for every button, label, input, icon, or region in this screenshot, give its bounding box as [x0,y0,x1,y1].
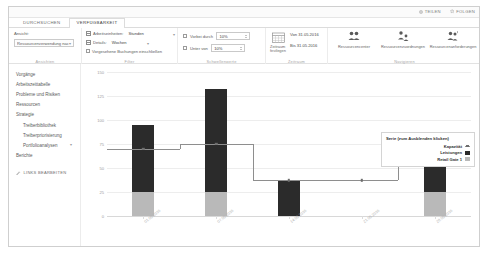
filter-arbeitseinheiten-value: Stunden [129,31,144,36]
filter-vorgesehene-buchungen[interactable]: Vorgesehene Buchungen einschließen [86,49,162,54]
legend-title: Serie (zum Ausblenden klicken) [386,136,470,141]
legend-item-swatch [465,151,470,155]
tab-durchsuchen[interactable]: DURCHSUCHEN [15,18,69,28]
legend-item-swatch [465,157,470,161]
ansicht-label: Ansicht: [14,31,29,36]
chart-capacity-marker[interactable] [215,143,217,145]
chart-ytick-label: 75 [99,142,104,147]
threshold-over-row: Vorbei durch 10% [183,32,250,40]
ressourcencenter-button[interactable]: Ressourcencenter [330,30,378,49]
chart-bar-segment[interactable] [205,89,227,192]
chart-legend: Serie (zum Ausblenden klicken) Kapazität… [381,132,475,167]
ribbon-group-filter-label: Filter [82,59,177,64]
view-select[interactable]: Ressourcenverwendung nac ▾ [14,39,74,47]
ressourcencenter-label: Ressourcencenter [330,45,378,49]
ribbon-group-zeitraum: Zeitraum festlegen Von 31.05.2016 Bis 31… [265,28,327,64]
checkbox-unter-von[interactable] [183,46,187,50]
chart-bar-group[interactable]: 01.05.2016 [107,72,180,216]
sidebar-item-list: VorgängeArbeitszeittabelleProbleme und R… [9,69,80,161]
legend-item-retail-gate-1[interactable]: Retail Gate 1 [386,157,470,162]
stepper-down-icon[interactable] [240,49,242,50]
star-icon [450,9,454,13]
ribbon-group-ansichten: Ansicht: Ressourcenverwendung nac ▾ Ansi… [9,28,81,64]
sidebar-item-treiberbibliothek[interactable]: Treiberbibliothek [9,120,80,130]
chevron-down-icon-details[interactable]: ▾ [147,41,149,46]
chart-bar-segment[interactable] [424,192,446,216]
sidebar-item-arbeitszeittabelle[interactable]: Arbeitszeittabelle [9,79,80,89]
chart-ytick-label: 125 [97,94,104,99]
chevron-down-icon[interactable]: ▾ [70,143,72,147]
threshold-over-value: 10% [217,34,228,39]
threshold-under-stepper[interactable] [239,45,243,51]
sidebar: VorgängeArbeitszeittabelleProbleme und R… [9,64,81,246]
legend-rows: KapazitätLeistungenRetail Gate 1 [386,144,470,162]
legend-item-swatch [465,146,470,147]
ressourcenzuordnungen-button[interactable]: Ressourcenzuordnungen [379,30,427,49]
chart-capacity-riser [398,166,399,180]
chart-ytick-label: 50 [99,166,104,171]
top-bar: TEILEN FOLGEN [9,7,479,18]
chart-ytick-label: 25 [99,190,104,195]
chart-bar-segment[interactable] [278,180,300,216]
tab-verfuegbarkeit[interactable]: VERFÜGBARKEIT [69,18,126,29]
follow-button[interactable]: FOLGEN [450,9,475,14]
threshold-under-label: Unter von [190,46,208,51]
checkbox-vorbei-durch[interactable] [183,34,187,38]
legend-item-kapazit-t[interactable]: Kapazität [386,144,470,149]
sidebar-item-label: Strategie [16,112,34,117]
filter-vorgesehene-buchungen-label: Vorgesehene Buchungen einschließen [92,49,162,54]
stepper-up-icon[interactable] [245,35,247,36]
ressourcenanforderungen-button[interactable]: Ressourcenanforderungen [429,30,477,49]
filter-details[interactable]: Details: Wochen [86,40,127,45]
people-request-icon [446,30,460,43]
checkbox-vorgesehene-buchungen[interactable] [86,49,90,53]
sidebar-item-ressourcen[interactable]: Ressourcen [9,100,80,110]
ribbon-group-navigieren-label: Navigieren [328,59,480,64]
filter-arbeitseinheiten[interactable]: Arbeitseinheiten: Stunden [86,31,144,36]
sidebar-item-berichte[interactable]: Berichte [9,151,80,161]
chevron-down-icon-units[interactable]: ▾ [173,32,175,37]
chart-capacity-marker[interactable] [288,179,290,181]
view-select-value: Ressourcenverwendung nac [17,41,69,46]
threshold-over-input[interactable]: 10% [216,32,250,40]
ribbon: Ansicht: Ressourcenverwendung nac ▾ Ansi… [9,28,479,64]
set-date-range-label: Zeitraum festlegen [270,45,292,54]
set-date-range-button[interactable] [272,32,285,43]
chart-bar-group[interactable]: 14.05.2016 [253,72,326,216]
chart-xtick-label: 21.05.2016 [362,208,380,224]
sidebar-item-probleme-und-risiken[interactable]: Probleme und Risiken [9,89,80,99]
sidebar-item-strategie[interactable]: Strategie [9,110,80,120]
date-to-value[interactable]: Bis 31.05.2016 [290,43,317,48]
ribbon-group-zeitraum-label: Zeitraum [266,59,327,64]
share-button[interactable]: TEILEN [419,9,441,14]
chart-bar-segment[interactable] [424,166,446,192]
threshold-over-stepper[interactable] [244,33,248,39]
chart-area: 025507510012515001.05.201607.05.201614.0… [81,64,479,246]
sidebar-item-portfolioanalysen[interactable]: Portfolioanalysen▾ [9,140,80,150]
sidebar-item-vorg-nge[interactable]: Vorgänge [9,69,80,79]
sidebar-item-label: Ressourcen [16,102,40,107]
chart-bar-segment[interactable] [132,125,154,192]
calendar-icon [272,32,285,43]
follow-label: FOLGEN [456,9,475,14]
date-from-value[interactable]: Von 31.05.2016 [290,32,319,37]
stepper-down-icon[interactable] [245,37,247,38]
ressourcenanforderungen-label: Ressourcenanforderungen [429,45,477,49]
stepper-up-icon[interactable] [240,47,242,48]
chart-capacity-marker[interactable] [142,148,144,150]
chart-capacity-riser [253,144,254,180]
filter-details-value: Wochen [112,40,127,45]
edit-links-button[interactable]: LINKS BEARBEITEN [9,168,80,178]
chart-capacity-marker[interactable] [361,179,363,181]
edit-links-label: LINKS BEARBEITEN [24,170,67,175]
sidebar-item-label: Vorgänge [16,72,35,77]
legend-item-leistungen[interactable]: Leistungen [386,150,470,155]
chart-ytick-label: 0 [102,214,104,219]
filter-arbeitseinheiten-label: Arbeitseinheiten: [93,31,124,36]
sidebar-item-label: Treiberpriorisierung [23,133,62,138]
sidebar-item-label: Arbeitszeittabelle [16,82,50,87]
chart-ytick-label: 150 [97,70,104,75]
legend-item-label: Retail Gate 1 [437,157,462,162]
sidebar-item-treiberpriorisierung[interactable]: Treiberpriorisierung [9,130,80,140]
threshold-under-input[interactable]: 10% [211,44,245,52]
